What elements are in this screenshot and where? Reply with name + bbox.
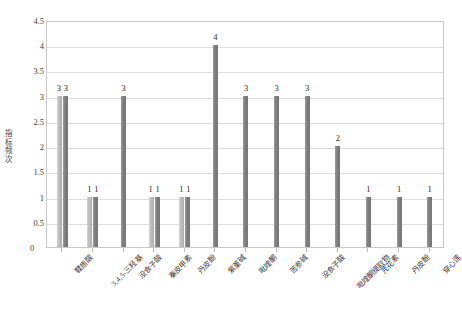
y-axis-tick-label: 0.5 bbox=[18, 218, 44, 228]
bar[interactable] bbox=[149, 197, 154, 247]
bar[interactable] bbox=[274, 96, 279, 247]
bar-group[interactable] bbox=[200, 22, 231, 247]
y-axis-tick-label: 4.5 bbox=[18, 16, 44, 26]
x-axis-tick-label: 紫堇碱 bbox=[225, 252, 248, 275]
bar-group[interactable] bbox=[47, 22, 78, 247]
bar[interactable] bbox=[93, 197, 98, 247]
bar-group[interactable] bbox=[231, 22, 262, 247]
bar-value-label: 1 bbox=[366, 184, 370, 194]
y-axis-tick-label: 2 bbox=[18, 142, 44, 152]
bar[interactable] bbox=[427, 197, 432, 247]
bar-value-label: 3 bbox=[121, 83, 125, 93]
bar[interactable] bbox=[63, 96, 68, 247]
x-axis-tick-label: 吡喹酮 bbox=[255, 252, 278, 275]
y-axis-tick-label: 1 bbox=[18, 193, 44, 203]
bar[interactable] bbox=[366, 197, 371, 247]
y-axis-zero-label: 0 bbox=[30, 243, 34, 253]
x-axis-tick-label: 穿心莲 bbox=[439, 252, 462, 275]
x-axis-tick-label: 秦皮甲素 bbox=[166, 252, 194, 280]
x-axis-tick-label: 鞣质酸 bbox=[72, 252, 95, 275]
bar-group[interactable] bbox=[108, 22, 139, 247]
bar-value-label: 3 bbox=[57, 83, 61, 93]
y-axis-tick-label: 4 bbox=[18, 41, 44, 51]
bar[interactable] bbox=[121, 96, 126, 247]
bar-group[interactable] bbox=[78, 22, 109, 247]
x-axis-tick-label: 没食子酸 bbox=[319, 252, 347, 280]
bar[interactable] bbox=[305, 96, 310, 247]
x-axis-tick-label: 苦参碱 bbox=[286, 252, 309, 275]
bar[interactable] bbox=[87, 197, 92, 247]
bar-value-label: 1 bbox=[179, 184, 183, 194]
bar[interactable] bbox=[179, 197, 184, 247]
x-axis-tick-labels: 鞣质酸3,4,5-三羟基没食子酸秦皮甲素丹皮酚紫堇碱吡喹酮苦参碱没食子酸吡喹酮提… bbox=[46, 252, 444, 324]
bar[interactable] bbox=[243, 96, 248, 247]
x-axis-tick-label: 丹皮酚 bbox=[408, 252, 431, 275]
bar[interactable] bbox=[213, 45, 218, 247]
bar[interactable] bbox=[185, 197, 190, 247]
bar[interactable] bbox=[397, 197, 402, 247]
bars-layer: 33113111143332111 bbox=[47, 22, 443, 247]
y-axis-tick-label: 2.5 bbox=[18, 117, 44, 127]
bar-group[interactable] bbox=[261, 22, 292, 247]
y-axis-tick-labels: 4.543.532.521.510.5 bbox=[18, 0, 44, 324]
bar[interactable] bbox=[155, 197, 160, 247]
bar-value-label: 1 bbox=[149, 184, 153, 194]
bar[interactable] bbox=[57, 96, 62, 247]
bar-value-label: 1 bbox=[87, 184, 91, 194]
bar-value-label: 1 bbox=[428, 184, 432, 194]
bar-value-label: 3 bbox=[64, 83, 68, 93]
bar-group[interactable] bbox=[292, 22, 323, 247]
bar-value-label: 3 bbox=[244, 83, 248, 93]
bar-value-label: 1 bbox=[94, 184, 98, 194]
bar-group[interactable] bbox=[414, 22, 445, 247]
bar-group[interactable] bbox=[353, 22, 384, 247]
y-axis-tick-label: 3.5 bbox=[18, 66, 44, 76]
y-axis-tick-label: 1.5 bbox=[18, 167, 44, 177]
bar-value-label: 3 bbox=[305, 83, 309, 93]
bar-group[interactable] bbox=[169, 22, 200, 247]
bar-value-label: 1 bbox=[186, 184, 190, 194]
plot-area: 33113111143332111 bbox=[46, 21, 444, 248]
bar-group[interactable] bbox=[384, 22, 415, 247]
bar-value-label: 1 bbox=[397, 184, 401, 194]
bar[interactable] bbox=[335, 146, 340, 247]
x-axis-tick-label: 丹皮酚 bbox=[194, 252, 217, 275]
bar-value-label: 1 bbox=[156, 184, 160, 194]
bar-value-label: 2 bbox=[336, 133, 340, 143]
y-axis-tick-label: 3 bbox=[18, 92, 44, 102]
bar-group[interactable] bbox=[139, 22, 170, 247]
bar-value-label: 3 bbox=[274, 83, 278, 93]
y-axis-title: 指标频次 bbox=[1, 106, 15, 186]
bar-value-label: 4 bbox=[213, 32, 217, 42]
